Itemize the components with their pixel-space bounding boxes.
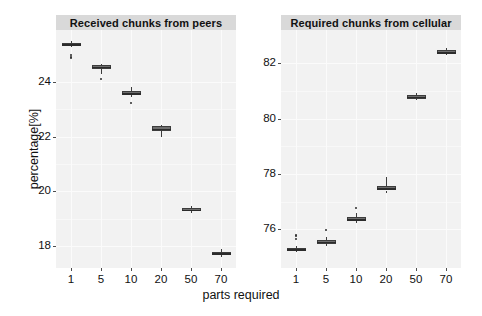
whisker-lower bbox=[221, 254, 222, 256]
x-tick-mark bbox=[446, 268, 447, 271]
x-tick-label: 50 bbox=[402, 273, 430, 285]
median-line bbox=[377, 188, 396, 189]
gridline-minor bbox=[56, 109, 236, 110]
x-tick-mark bbox=[326, 268, 327, 271]
gridline-major bbox=[281, 174, 461, 175]
outlier-point bbox=[355, 207, 357, 209]
x-tick-mark bbox=[296, 268, 297, 271]
gridline-vertical bbox=[416, 30, 417, 268]
whisker-lower bbox=[446, 54, 447, 56]
y-tick-label: 18 bbox=[29, 239, 51, 251]
gridline-vertical bbox=[161, 30, 162, 268]
median-line bbox=[317, 242, 336, 243]
x-tick-label: 5 bbox=[312, 273, 340, 285]
gridline-vertical bbox=[191, 30, 192, 268]
gridline-major bbox=[56, 246, 236, 247]
gridline-minor bbox=[281, 146, 461, 147]
gridline-vertical bbox=[221, 30, 222, 268]
median-line bbox=[182, 210, 201, 211]
x-tick-label: 1 bbox=[282, 273, 310, 285]
x-tick-mark bbox=[386, 268, 387, 271]
x-tick-label: 5 bbox=[87, 273, 115, 285]
whisker-lower bbox=[386, 191, 387, 193]
gridline-vertical bbox=[326, 30, 327, 268]
y-tick-label: 24 bbox=[29, 75, 51, 87]
x-tick-mark bbox=[161, 268, 162, 271]
y-tick-mark bbox=[278, 119, 281, 120]
median-line bbox=[62, 44, 81, 45]
panel-strip-1: Received chunks from peers bbox=[56, 15, 236, 30]
x-tick-label: 10 bbox=[342, 273, 370, 285]
median-line bbox=[287, 249, 306, 250]
x-tick-label: 10 bbox=[117, 273, 145, 285]
gridline-major bbox=[56, 137, 236, 138]
x-tick-label: 50 bbox=[177, 273, 205, 285]
y-tick-mark bbox=[278, 229, 281, 230]
y-tick-mark bbox=[53, 191, 56, 192]
whisker-lower bbox=[326, 244, 327, 246]
x-axis-label: parts required bbox=[0, 288, 482, 302]
y-axis-label: percentage[%] bbox=[27, 79, 41, 219]
outlier-point bbox=[100, 78, 102, 80]
median-line bbox=[407, 97, 426, 98]
y-tick-mark bbox=[278, 63, 281, 64]
gridline-vertical bbox=[446, 30, 447, 268]
gridline-major bbox=[281, 63, 461, 64]
y-tick-label: 20 bbox=[29, 184, 51, 196]
gridline-minor bbox=[281, 202, 461, 203]
median-line bbox=[92, 67, 111, 68]
whisker-lower bbox=[356, 221, 357, 223]
x-tick-mark bbox=[221, 268, 222, 271]
median-line bbox=[122, 93, 141, 94]
x-tick-label: 70 bbox=[207, 273, 235, 285]
panel-strip-2: Required chunks from cellular bbox=[281, 15, 461, 30]
y-tick-mark bbox=[278, 174, 281, 175]
y-tick-label: 82 bbox=[254, 56, 276, 68]
gridline-major bbox=[56, 191, 236, 192]
x-tick-mark bbox=[191, 268, 192, 271]
y-tick-label: 80 bbox=[254, 112, 276, 124]
plot-panel-2 bbox=[281, 30, 461, 268]
gridline-major bbox=[281, 229, 461, 230]
y-tick-mark bbox=[53, 137, 56, 138]
median-line bbox=[212, 253, 231, 254]
median-line bbox=[152, 129, 171, 130]
gridline-minor bbox=[281, 91, 461, 92]
gridline-minor bbox=[56, 219, 236, 220]
x-tick-mark bbox=[356, 268, 357, 271]
median-line bbox=[347, 219, 366, 220]
x-tick-label: 1 bbox=[57, 273, 85, 285]
whisker-lower bbox=[416, 99, 417, 101]
whisker-lower bbox=[191, 211, 192, 213]
x-tick-mark bbox=[416, 268, 417, 271]
whisker-lower bbox=[101, 69, 102, 73]
y-tick-label: 76 bbox=[254, 222, 276, 234]
gridline-vertical bbox=[386, 30, 387, 268]
outlier-point bbox=[295, 234, 297, 236]
y-tick-label: 22 bbox=[29, 130, 51, 142]
y-tick-label: 78 bbox=[254, 167, 276, 179]
whisker-lower bbox=[296, 251, 297, 253]
x-tick-label: 70 bbox=[432, 273, 460, 285]
x-tick-label: 20 bbox=[147, 273, 175, 285]
x-tick-mark bbox=[71, 268, 72, 271]
x-tick-label: 20 bbox=[372, 273, 400, 285]
gridline-major bbox=[56, 82, 236, 83]
outlier-point bbox=[295, 238, 297, 240]
whisker-lower bbox=[71, 46, 72, 47]
gridline-vertical bbox=[296, 30, 297, 268]
boxplot-figure: percentage[%] parts required Received ch… bbox=[0, 0, 482, 316]
plot-panel-1 bbox=[56, 30, 236, 268]
whisker-lower bbox=[131, 95, 132, 97]
x-tick-mark bbox=[101, 268, 102, 271]
whisker-upper bbox=[386, 177, 387, 185]
gridline-major bbox=[281, 119, 461, 120]
y-tick-mark bbox=[53, 246, 56, 247]
gridline-vertical bbox=[71, 30, 72, 268]
whisker-lower bbox=[161, 131, 162, 137]
x-tick-mark bbox=[131, 268, 132, 271]
y-tick-mark bbox=[53, 82, 56, 83]
gridline-vertical bbox=[131, 30, 132, 268]
gridline-vertical bbox=[356, 30, 357, 268]
median-line bbox=[437, 52, 456, 53]
